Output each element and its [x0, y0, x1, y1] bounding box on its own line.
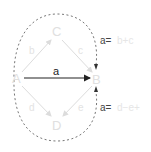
edge-label-b: b: [29, 45, 35, 56]
node-A: A: [12, 71, 21, 86]
loop-arrowhead-top: [94, 64, 98, 70]
edge-c: [62, 40, 92, 72]
edge-label-a: a: [53, 65, 60, 77]
edge-label-d: d: [29, 102, 35, 113]
node-D: D: [52, 118, 61, 133]
node-B: B: [92, 72, 101, 87]
node-C: C: [52, 24, 61, 39]
path-diagram: A B C D a b c d e a= b+c a= d−e+: [0, 0, 151, 152]
edge-d: [22, 86, 51, 116]
equation-top-lhs: a=: [100, 35, 112, 46]
equation-bottom-lhs: a=: [100, 102, 112, 113]
equation-top-rhs: b+c: [117, 35, 133, 46]
equation-bottom-rhs: d−e+: [117, 102, 140, 113]
edge-label-c: c: [78, 45, 83, 56]
edge-b: [22, 40, 51, 72]
edge-label-e: e: [78, 102, 84, 113]
